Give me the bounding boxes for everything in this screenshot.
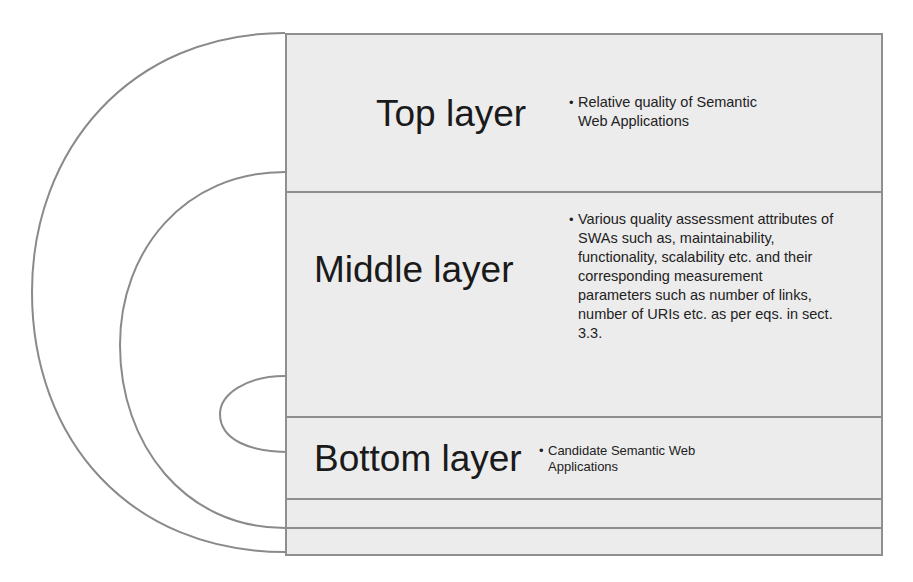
top-layer-row: Top layer • Relative quality of Semantic… (287, 35, 881, 193)
bottom-layer-description-text: Candidate Semantic Web Applications (548, 443, 695, 474)
outer-arc-connector (32, 33, 285, 552)
middle-layer-description: • Various quality assessment attributes … (569, 210, 834, 343)
top-layer-description: • Relative quality of Semantic Web Appli… (569, 93, 769, 131)
bottom-layer-description: • Candidate Semantic Web Applications (539, 443, 719, 475)
bullet-icon: • (539, 443, 544, 459)
top-layer-title: Top layer (376, 93, 526, 135)
bullet-icon: • (569, 210, 574, 229)
connector-strip-2 (287, 529, 881, 554)
bottom-layer-title: Bottom layer (314, 438, 522, 480)
middle-layer-description-text: Various quality assessment attributes of… (578, 211, 833, 341)
middle-layer-title: Middle layer (314, 249, 513, 291)
top-layer-description-text: Relative quality of Semantic Web Applica… (578, 94, 757, 129)
layer-stack: Top layer • Relative quality of Semantic… (285, 33, 883, 556)
middle-layer-row: Middle layer • Various quality assessmen… (287, 193, 881, 418)
bottom-layer-row: Bottom layer • Candidate Semantic Web Ap… (287, 418, 881, 500)
middle-arc-connector (120, 172, 285, 528)
bullet-icon: • (569, 93, 574, 112)
inner-loop-connector (220, 376, 290, 452)
connector-strip-1 (287, 500, 881, 529)
